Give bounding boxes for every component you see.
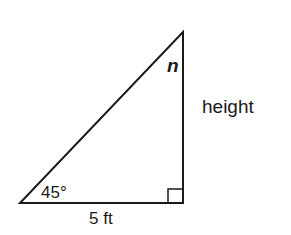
right-triangle-diagram: n height 45° 5 ft bbox=[0, 0, 291, 235]
angle-n-label: n bbox=[167, 55, 179, 76]
angle-45-label: 45° bbox=[41, 183, 67, 202]
right-angle-marker bbox=[168, 189, 183, 203]
height-label: height bbox=[202, 96, 254, 117]
base-length-label: 5 ft bbox=[89, 209, 113, 228]
triangle bbox=[20, 32, 183, 203]
